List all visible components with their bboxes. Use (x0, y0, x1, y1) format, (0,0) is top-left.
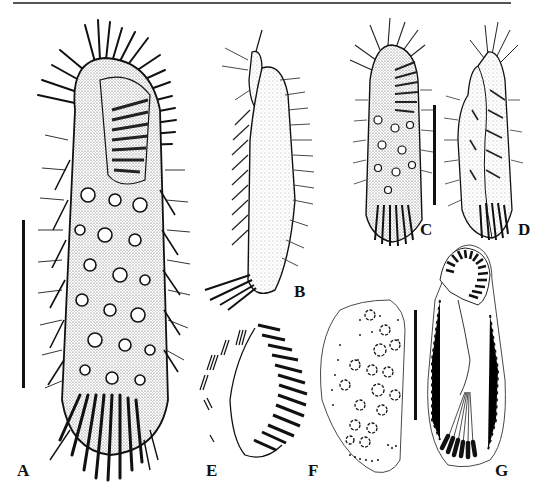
panel-a-drawing (38, 20, 190, 480)
panel-label-g: G (495, 461, 508, 481)
panel-f-drawing (320, 300, 405, 473)
figure-illustration (0, 0, 543, 495)
panel-e-drawing (200, 325, 307, 457)
panel-b-drawing (205, 30, 314, 310)
scale-bar-c-d (433, 105, 436, 205)
panel-c-drawing (350, 18, 433, 246)
panel-label-d: D (518, 220, 530, 240)
panel-label-a: A (17, 461, 29, 481)
panel-label-f: F (308, 461, 318, 481)
panel-label-c: C (420, 220, 432, 240)
panel-d-drawing (444, 22, 523, 240)
scale-bar-f-g (414, 310, 417, 420)
panel-label-b: B (294, 282, 305, 302)
scale-bar-a (22, 220, 25, 388)
panel-label-e: E (206, 461, 217, 481)
panel-g-drawing (428, 245, 506, 467)
